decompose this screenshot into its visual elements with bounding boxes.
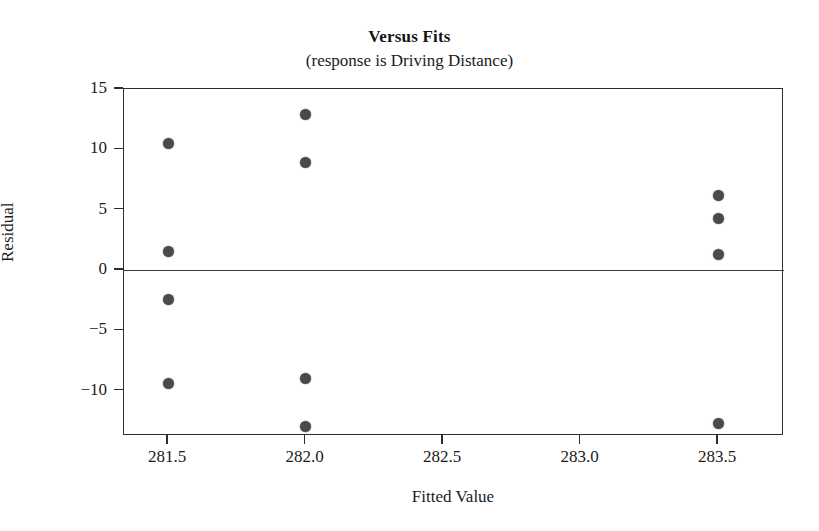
- data-point: [713, 213, 724, 224]
- data-point: [713, 249, 724, 260]
- y-tick-label: 10: [37, 138, 107, 158]
- x-tick-mark: [579, 435, 581, 444]
- y-tick-mark: [114, 268, 123, 270]
- x-axis-title: Fitted Value: [123, 487, 783, 507]
- y-tick-mark: [114, 87, 123, 89]
- data-point: [300, 157, 311, 168]
- plot-area: [123, 88, 783, 435]
- chart-title: Versus Fits: [0, 27, 819, 47]
- y-tick-label: 0: [37, 259, 107, 279]
- zero-reference-line: [124, 270, 784, 271]
- x-tick-label: 283.5: [672, 447, 762, 467]
- x-tick-mark: [441, 435, 443, 444]
- data-point: [163, 138, 174, 149]
- x-tick-mark: [166, 435, 168, 444]
- y-tick-mark: [114, 329, 123, 331]
- y-tick-mark: [114, 208, 123, 210]
- x-tick-label: 283.0: [535, 447, 625, 467]
- y-tick-label: 15: [37, 78, 107, 98]
- data-point: [163, 378, 174, 389]
- x-tick-mark: [716, 435, 718, 444]
- x-tick-mark: [304, 435, 306, 444]
- y-tick-mark: [114, 389, 123, 391]
- data-point: [300, 421, 311, 432]
- y-tick-label: −5: [37, 319, 107, 339]
- data-point: [713, 418, 724, 429]
- data-point: [300, 373, 311, 384]
- chart-figure: Versus Fits (response is Driving Distanc…: [0, 0, 819, 531]
- y-tick-label: −10: [37, 380, 107, 400]
- y-tick-label: 5: [37, 199, 107, 219]
- data-point: [163, 294, 174, 305]
- chart-subtitle: (response is Driving Distance): [0, 51, 819, 71]
- x-tick-label: 281.5: [122, 447, 212, 467]
- y-tick-mark: [114, 148, 123, 150]
- x-tick-label: 282.0: [260, 447, 350, 467]
- data-point: [163, 246, 174, 257]
- data-point: [713, 190, 724, 201]
- data-point: [300, 109, 311, 120]
- x-tick-label: 282.5: [397, 447, 487, 467]
- y-axis-title: Residual: [0, 203, 18, 263]
